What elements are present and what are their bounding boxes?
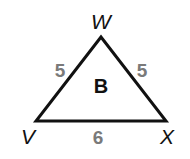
vertex-label-w: W: [91, 10, 113, 33]
figure-name-label: B: [94, 75, 108, 97]
side-label-vw: 5: [55, 60, 66, 81]
vertex-label-v: V: [21, 125, 37, 148]
triangle-svg: W V X 5 5 6 B: [0, 0, 190, 159]
side-label-wx: 5: [137, 60, 148, 81]
triangle-diagram: W V X 5 5 6 B: [0, 0, 190, 159]
vertex-label-x: X: [159, 125, 175, 148]
side-label-vx: 6: [93, 127, 104, 148]
